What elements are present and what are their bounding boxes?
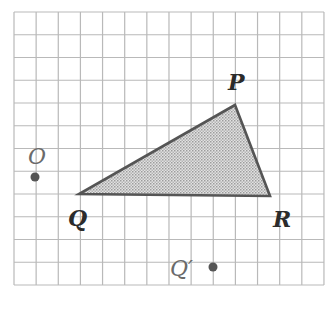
label-p: P <box>227 69 246 95</box>
label-o: O <box>28 144 46 169</box>
label-q-prime: Q′ <box>170 256 193 281</box>
point-o <box>31 173 40 182</box>
point-q-prime <box>209 263 218 272</box>
label-r: R <box>272 206 291 232</box>
label-q: Q <box>68 205 87 231</box>
transformation-diagram: P Q R O Q′ <box>0 0 336 311</box>
triangle-pqr <box>79 105 270 196</box>
